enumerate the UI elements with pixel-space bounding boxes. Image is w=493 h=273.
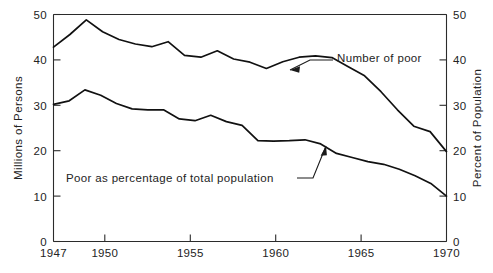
annotation-poor-percentage-leader (297, 146, 326, 178)
right-tick-label-30: 30 (453, 100, 466, 112)
x-tick-label-1947: 1947 (40, 247, 67, 259)
x-tick-label-1965: 1965 (348, 247, 375, 259)
x-tick-label-1950: 1950 (91, 247, 118, 259)
poverty-trend-chart-figure: 50 40 30 20 10 0 50 40 30 20 10 0 (0, 0, 493, 273)
left-tick-label-20: 20 (34, 145, 47, 157)
chart-canvas: 50 40 30 20 10 0 50 40 30 20 10 0 (0, 0, 493, 273)
annotation-number-of-poor: Number of poor (290, 52, 422, 73)
annotation-poor-percentage-label: Poor as percentage of total population (66, 172, 274, 184)
left-axis-title: Millions of Persons (12, 76, 24, 180)
left-tick-label-50: 50 (34, 9, 47, 21)
right-axis-title: Percent of Population (471, 69, 483, 187)
annotation-poor-percentage-arrowhead (321, 146, 327, 156)
x-axis-tick-labels: 1947 1950 1955 1960 1965 1970 (40, 247, 460, 259)
annotation-number-of-poor-label: Number of poor (337, 52, 422, 64)
right-tick-label-40: 40 (453, 54, 466, 66)
left-tick-label-10: 10 (34, 191, 47, 203)
right-axis-ticks (440, 15, 447, 242)
left-tick-label-40: 40 (34, 54, 47, 66)
right-tick-label-20: 20 (453, 145, 466, 157)
left-axis-ticks (54, 15, 61, 242)
annotation-poor-percentage: Poor as percentage of total population (66, 146, 327, 184)
x-tick-label-1960: 1960 (262, 247, 289, 259)
x-tick-label-1955: 1955 (177, 247, 204, 259)
left-axis-tick-labels: 50 40 30 20 10 0 (34, 9, 47, 248)
right-axis-tick-labels: 50 40 30 20 10 0 (453, 9, 466, 248)
right-tick-label-10: 10 (453, 191, 466, 203)
plot-frame (54, 15, 447, 242)
left-tick-label-30: 30 (34, 100, 47, 112)
x-axis-ticks (105, 235, 361, 242)
x-tick-label-1970: 1970 (433, 247, 460, 259)
right-tick-label-50: 50 (453, 9, 466, 21)
